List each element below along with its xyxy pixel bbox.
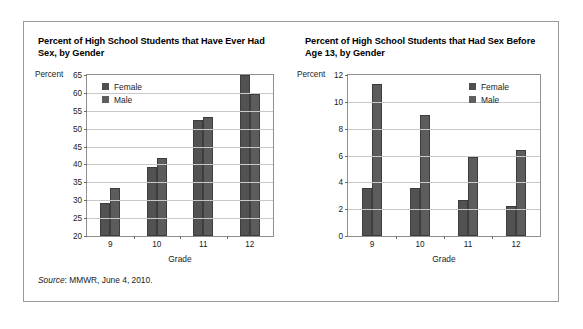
x-axis-tick-label: 10 [145,240,169,249]
y-axis-tick-label: 60 [73,88,82,97]
y-axis-unit-label-right: Percent [297,70,325,79]
x-axis-tick-mark [492,236,493,239]
x-axis-title-right: Grade [347,254,541,264]
bar-group [145,75,169,236]
bar-group [191,75,215,236]
y-axis-tick-mark [345,236,348,237]
x-axis-tick-mark [444,236,445,239]
gridline [348,102,540,103]
legend-swatch-male-icon [102,96,109,103]
y-axis-tick-label: 6 [338,151,343,160]
y-axis-tick-label: 20 [73,232,82,241]
y-axis-tick-mark [84,218,87,219]
y-axis-tick-label: 12 [334,71,343,80]
y-axis-tick-label: 35 [73,178,82,187]
plot-area-right: 0246810129101112 [347,74,541,237]
y-axis-tick-mark [84,93,87,94]
gridline [87,111,273,112]
gridline [348,156,540,157]
bar-male-grade-12 [516,150,526,236]
bar-female-grade-12 [506,206,516,236]
y-axis-tick-label: 25 [73,214,82,223]
bar-group [238,75,262,236]
y-axis-tick-label: 50 [73,124,82,133]
gridline [348,182,540,183]
legend-swatch-female-icon [469,83,476,90]
bar-female-grade-11 [458,200,468,236]
y-axis-tick-label: 40 [73,160,82,169]
chart-panel-sex-before-13: Percent of High School Students that Had… [291,22,558,258]
y-axis-tick-mark [84,147,87,148]
gridline [87,182,273,183]
y-axis-tick-label: 65 [73,71,82,80]
y-axis-tick-mark [84,111,87,112]
bar-male-grade-9 [372,84,382,236]
bar-female-grade-10 [410,188,420,236]
x-axis-tick-label: 12 [238,240,262,249]
panel-title-right: Percent of High School Students that Had… [305,35,549,60]
y-axis-tick-mark [84,200,87,201]
y-axis-tick-label: 45 [73,142,82,151]
legend-left: Female Male [102,80,142,106]
panel-title-left: Percent of High School Students that Hav… [38,35,282,60]
y-axis-tick-label: 2 [338,205,343,214]
x-axis-tick-mark [180,236,181,239]
y-axis-tick-label: 55 [73,106,82,115]
x-axis-tick-mark [134,236,135,239]
y-axis-tick-mark [345,182,348,183]
x-axis-tick-label: 12 [504,240,529,249]
legend-label-female: Female [114,82,142,92]
x-axis-title-left: Grade [86,254,274,264]
y-axis-tick-mark [345,102,348,103]
x-axis-tick-mark [227,236,228,239]
legend-label-male: Male [114,95,132,105]
y-axis-unit-label-left: Percent [35,70,63,79]
bar-male-grade-10 [420,115,430,236]
y-axis-tick-label: 8 [338,124,343,133]
bar-female-grade-9 [100,203,110,236]
bar-male-grade-9 [110,188,120,236]
y-axis-tick-label: 10 [334,97,343,106]
x-axis-tick-mark [396,236,397,239]
bar-female-grade-12 [240,75,250,236]
gridline [87,164,273,165]
y-axis-tick-mark [345,156,348,157]
y-axis-tick-label: 30 [73,196,82,205]
legend-swatch-female-icon [102,83,109,90]
x-axis-tick-label: 10 [408,240,433,249]
legend-item-female: Female [102,80,142,93]
y-axis-tick-mark [84,129,87,130]
chart-panel-ever-had-sex: Percent of High School Students that Hav… [24,22,291,258]
y-axis-tick-mark [84,236,87,237]
bar-female-grade-9 [362,188,372,236]
y-axis-tick-mark [345,75,348,76]
x-axis-tick-label: 11 [191,240,215,249]
x-axis-tick-label: 11 [456,240,481,249]
bar-male-grade-11 [468,157,478,236]
y-axis-tick-mark [84,164,87,165]
y-axis-tick-mark [345,209,348,210]
legend-label-female: Female [481,82,509,92]
figure-frame: Percent of High School Students that Hav… [23,21,559,302]
legend-item-male: Male [102,93,142,106]
chart-panels: Percent of High School Students that Hav… [24,22,558,258]
gridline [348,209,540,210]
y-axis-tick-label: 4 [338,178,343,187]
legend-swatch-male-icon [469,96,476,103]
legend-right: Female Male [469,80,509,106]
gridline [348,129,540,130]
source-text: : MMWR, June 4, 2010. [65,275,153,285]
y-axis-tick-mark [84,75,87,76]
legend-item-female: Female [469,80,509,93]
bar-male-grade-10 [157,158,167,236]
source-label: Source [38,275,65,285]
gridline [87,129,273,130]
y-axis-tick-mark [84,182,87,183]
y-axis-tick-label: 0 [338,232,343,241]
gridline [87,147,273,148]
y-axis-tick-mark [345,129,348,130]
gridline [87,200,273,201]
x-axis-tick-label: 9 [98,240,122,249]
bar-female-grade-10 [147,167,157,236]
legend-label-male: Male [481,95,499,105]
